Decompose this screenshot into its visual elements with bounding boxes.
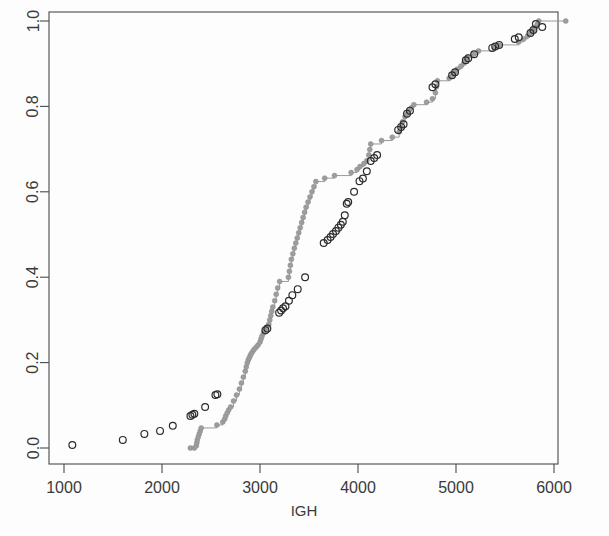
- data-point-empirical-step-cdf: [304, 205, 309, 210]
- data-point-empirical-step-cdf: [563, 19, 568, 24]
- data-point-empirical-step-cdf: [301, 215, 306, 220]
- data-point-empirical-step-cdf: [286, 275, 291, 280]
- y-tick-label: 1.0: [25, 10, 42, 32]
- y-tick-label: 0.6: [25, 181, 42, 203]
- data-point-empirical-step-cdf: [228, 405, 233, 410]
- data-point-empirical-step-cdf: [367, 147, 372, 152]
- data-point-empirical-step-cdf: [234, 393, 239, 398]
- data-point-empirical-step-cdf: [307, 194, 312, 199]
- data-point-empirical-step-cdf: [368, 141, 373, 146]
- data-point-empirical-step-cdf: [292, 246, 297, 251]
- y-tick-label: 0.8: [25, 95, 42, 117]
- data-point-empirical-step-cdf: [290, 251, 295, 256]
- y-tick-label: 0.0: [25, 437, 42, 459]
- plot-background: [0, 0, 609, 536]
- data-point-empirical-step-cdf: [302, 210, 307, 215]
- ecdf-plot: 100020003000400050006000 0.00.20.40.60.8…: [0, 0, 609, 536]
- data-point-empirical-step-cdf: [287, 269, 292, 274]
- data-point-empirical-step-cdf: [289, 257, 294, 262]
- data-point-empirical-step-cdf: [272, 298, 277, 303]
- data-point-empirical-step-cdf: [390, 135, 395, 140]
- data-point-empirical-step-cdf: [379, 138, 384, 143]
- x-tick-label: 5000: [438, 479, 474, 496]
- data-point-empirical-step-cdf: [322, 176, 327, 181]
- y-tick-label: 0.4: [25, 266, 42, 288]
- data-point-empirical-step-cdf: [231, 399, 236, 404]
- data-point-empirical-step-cdf: [199, 425, 204, 430]
- data-point-empirical-step-cdf: [241, 375, 246, 380]
- data-point-empirical-step-cdf: [311, 184, 316, 189]
- data-point-empirical-step-cdf: [214, 422, 219, 427]
- data-point-empirical-step-cdf: [288, 263, 293, 268]
- data-point-empirical-step-cdf: [237, 387, 242, 392]
- data-point-empirical-step-cdf: [275, 285, 280, 290]
- data-point-empirical-step-cdf: [313, 179, 318, 184]
- data-point-empirical-step-cdf: [277, 279, 282, 284]
- x-tick-label: 2000: [144, 479, 180, 496]
- data-point-empirical-step-cdf: [424, 100, 429, 105]
- data-point-empirical-step-cdf: [306, 200, 311, 205]
- data-point-empirical-step-cdf: [298, 225, 303, 230]
- x-tick-label: 4000: [340, 479, 376, 496]
- y-tick-label: 0.2: [25, 351, 42, 373]
- data-point-empirical-step-cdf: [274, 292, 279, 297]
- data-point-empirical-step-cdf: [270, 305, 275, 310]
- data-point-empirical-step-cdf: [411, 102, 416, 107]
- data-point-empirical-step-cdf: [293, 241, 298, 246]
- data-point-empirical-step-cdf: [295, 235, 300, 240]
- data-point-empirical-step-cdf: [430, 96, 435, 101]
- data-point-empirical-step-cdf: [349, 170, 354, 175]
- chart-root: 100020003000400050006000 0.00.20.40.60.8…: [0, 0, 609, 536]
- data-point-empirical-step-cdf: [239, 381, 244, 386]
- x-tick-label: 6000: [536, 479, 572, 496]
- data-point-empirical-step-cdf: [296, 230, 301, 235]
- x-axis-label: IGH: [291, 502, 318, 519]
- data-point-empirical-step-cdf: [332, 173, 337, 178]
- data-point-empirical-step-cdf: [309, 189, 314, 194]
- data-point-empirical-step-cdf: [299, 220, 304, 225]
- x-tick-label: 1000: [46, 479, 82, 496]
- x-tick-label: 3000: [242, 479, 278, 496]
